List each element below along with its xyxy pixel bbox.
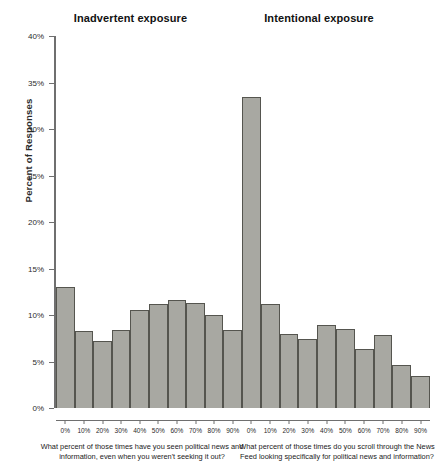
y-axis-tick (49, 269, 54, 270)
x-axis-tick (401, 420, 402, 424)
bar (392, 365, 411, 408)
bar (205, 315, 224, 408)
y-axis-tick-label: 5% (16, 357, 44, 366)
bar (411, 376, 430, 408)
y-axis-tick (49, 176, 54, 177)
y-axis-tick (49, 83, 54, 84)
x-axis-tick (102, 420, 103, 424)
panel-intentional-exposure: Intentional exposure 0%10%20%30%40%50%60… (238, 0, 444, 472)
bar (130, 310, 149, 408)
y-axis-tick-label: 0% (16, 404, 44, 413)
x-axis-tick (65, 420, 66, 424)
x-axis-tick (121, 420, 122, 424)
x-axis-tick-label: 10% (264, 427, 277, 434)
y-axis-tick-label: 30% (16, 125, 44, 134)
bar (75, 331, 94, 408)
bar (149, 304, 168, 408)
x-axis-tick (139, 420, 140, 424)
bar (56, 287, 75, 408)
x-axis-tick (420, 420, 421, 424)
x-axis-tick-label: 30% (301, 427, 314, 434)
x-axis-tick (158, 420, 159, 424)
bar (242, 97, 261, 408)
y-axis-tick-label: 40% (16, 32, 44, 41)
bar (317, 325, 336, 408)
x-axis-tick-label: 80% (395, 427, 408, 434)
bar-series (56, 36, 242, 408)
bar (186, 303, 205, 408)
y-axis-tick-label: 10% (16, 311, 44, 320)
x-axis-tick-label: 70% (189, 427, 202, 434)
panel-title: Intentional exposure (216, 12, 422, 24)
panel-caption: What percent of those times do you scrol… (234, 442, 440, 461)
bar (355, 349, 374, 408)
x-axis: 0%10%20%30%40%50%60%70%80%90% (56, 420, 242, 421)
x-axis-tick-label: 0% (247, 427, 256, 434)
y-axis-tick-label: 15% (16, 264, 44, 273)
y-axis-tick (49, 36, 54, 37)
y-axis-tick-label: 20% (16, 218, 44, 227)
bar (261, 304, 280, 408)
x-axis-tick-label: 0% (61, 427, 70, 434)
x-axis-tick-label: 80% (208, 427, 221, 434)
bar (298, 339, 317, 408)
x-axis-tick (289, 420, 290, 424)
x-axis-tick-label: 60% (170, 427, 183, 434)
x-axis-tick-label: 50% (339, 427, 352, 434)
x-axis-tick (251, 420, 252, 424)
plot-area (242, 36, 430, 408)
x-axis-tick-label: 50% (152, 427, 165, 434)
x-axis: 0%10%20%30%40%50%60%70%80%90% (242, 420, 430, 421)
x-axis-tick (383, 420, 384, 424)
x-axis-tick (176, 420, 177, 424)
x-axis-tick-label: 40% (320, 427, 333, 434)
x-axis-tick-label: 20% (282, 427, 295, 434)
x-axis-tick (270, 420, 271, 424)
x-axis-tick-label: 10% (77, 427, 90, 434)
x-axis-tick-label: 20% (96, 427, 109, 434)
y-axis-title: Percent of Responses (23, 71, 34, 231)
x-axis-tick (195, 420, 196, 424)
bar (280, 334, 299, 408)
panel-title: Inadvertent exposure (28, 12, 233, 24)
x-axis-tick (307, 420, 308, 424)
figure: Percent of Responses Inadvertent exposur… (0, 0, 444, 472)
x-axis-tick (326, 420, 327, 424)
bar-series (242, 36, 430, 408)
bar (112, 330, 131, 408)
panel-caption: What percent of those times have you see… (40, 442, 244, 461)
x-axis-tick (83, 420, 84, 424)
y-axis-tick (49, 362, 54, 363)
x-axis-tick (364, 420, 365, 424)
x-axis-tick-label: 60% (358, 427, 371, 434)
y-axis-tick-label: 35% (16, 78, 44, 87)
panel-inadvertent-exposure: Inadvertent exposure 0%5%10%15%20%25%30%… (38, 0, 243, 472)
x-axis-tick (232, 420, 233, 424)
x-axis-tick-label: 70% (376, 427, 389, 434)
y-axis-tick (49, 222, 54, 223)
plot-area (56, 36, 242, 408)
y-axis-tick (49, 315, 54, 316)
x-axis-tick (214, 420, 215, 424)
bar (168, 300, 187, 408)
x-axis-tick-label: 40% (133, 427, 146, 434)
x-axis-tick-label: 90% (414, 427, 427, 434)
y-axis-tick (49, 129, 54, 130)
bar (93, 341, 112, 408)
y-axis-tick-label: 25% (16, 171, 44, 180)
y-axis-tick (49, 408, 54, 409)
bar (336, 329, 355, 408)
x-axis-tick (345, 420, 346, 424)
x-axis-tick-label: 30% (115, 427, 128, 434)
bar (374, 335, 393, 408)
